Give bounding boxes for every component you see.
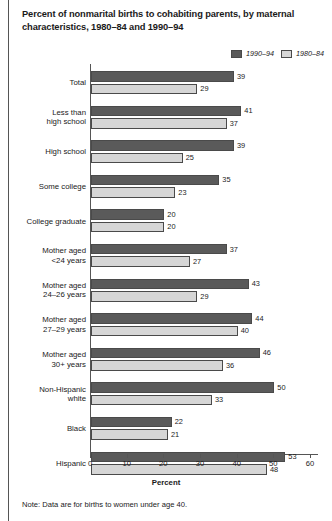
bar-1990-94 — [91, 382, 274, 393]
bar-item: 20 — [91, 208, 176, 221]
x-tick-mark — [237, 454, 238, 458]
bar-item: 44 — [91, 312, 264, 325]
bar-1990-94 — [91, 348, 260, 359]
bar-value-label: 29 — [200, 85, 208, 92]
category-label: Hispanic — [0, 459, 86, 469]
bar-value-label: 29 — [200, 293, 208, 300]
legend-label-1980-84: 1980–84 — [296, 49, 324, 58]
bar-1980-84 — [91, 153, 183, 164]
bar-value-label: 37 — [230, 246, 238, 253]
bar-rows-container: Total3929Less thanhigh school4137High sc… — [0, 66, 332, 481]
bar-1990-94 — [91, 417, 172, 428]
bar-item: 39 — [91, 70, 245, 83]
bar-item: 23 — [91, 186, 231, 199]
x-tick-mark — [200, 454, 201, 458]
bar-item: 37 — [91, 243, 238, 256]
bar-value-label: 50 — [277, 384, 285, 391]
category-label: College graduate — [0, 217, 86, 227]
bar-value-label: 23 — [178, 189, 186, 196]
chart-title: Percent of nonmarital births to cohabiti… — [22, 8, 322, 33]
bar-item: 36 — [91, 359, 271, 372]
x-tick-mark — [310, 454, 311, 458]
bar-1990-94 — [91, 175, 219, 186]
bar-value-label: 39 — [237, 142, 245, 149]
bar-value-label: 37 — [230, 120, 238, 127]
bar-item: 43 — [91, 278, 260, 291]
bar-1980-84 — [91, 395, 212, 406]
category-label: High school — [0, 148, 86, 158]
bar-item: 41 — [91, 105, 253, 118]
bar-pair: 3727 — [91, 243, 238, 268]
bar-value-label: 53 — [288, 453, 296, 460]
category-label: Mother aged30+ years — [0, 350, 86, 369]
legend-item-1980-84: 1980–84 — [281, 49, 324, 58]
bar-value-label: 46 — [263, 349, 271, 356]
x-tick-mark — [273, 454, 274, 458]
bar-pair: 4329 — [91, 278, 260, 303]
bar-1990-94 — [91, 209, 164, 220]
x-tick-mark — [127, 454, 128, 458]
bar-value-label: 20 — [167, 211, 175, 218]
x-tick-label: 20 — [159, 459, 167, 468]
bar-item: 25 — [91, 152, 245, 165]
bar-value-label: 33 — [215, 396, 223, 403]
x-tick-label: 10 — [122, 459, 130, 468]
x-tick-label: 30 — [196, 459, 204, 468]
bar-item: 29 — [91, 83, 245, 96]
bar-chart-plot-area: Total3929Less thanhigh school4137High sc… — [0, 64, 332, 454]
bar-group-row: Black2221 — [0, 412, 332, 447]
chart-legend: 1990–94 1980–84 — [231, 49, 324, 58]
bar-1990-94 — [91, 313, 252, 324]
bar-1980-84 — [91, 84, 197, 95]
bar-item: 39 — [91, 139, 245, 152]
bar-value-label: 43 — [252, 280, 260, 287]
x-tick-mark — [163, 454, 164, 458]
bar-item: 27 — [91, 255, 238, 268]
bar-1980-84 — [91, 291, 197, 302]
bar-1980-84 — [91, 326, 238, 337]
bar-value-label: 41 — [244, 107, 252, 114]
bar-item: 33 — [91, 394, 286, 407]
category-label: Black — [0, 424, 86, 434]
bar-value-label: 20 — [167, 223, 175, 230]
bar-value-label: 35 — [222, 176, 230, 183]
bar-1980-84 — [91, 429, 168, 440]
bar-1990-94 — [91, 140, 234, 151]
bar-item: 20 — [91, 221, 176, 234]
bar-pair: 2221 — [91, 416, 183, 441]
legend-label-1990-94: 1990–94 — [246, 49, 274, 58]
x-tick-label: 0 — [88, 459, 92, 468]
bar-pair: 4636 — [91, 347, 271, 372]
chart-note: Note: Data are for births to women under… — [22, 500, 187, 509]
bar-pair: 4137 — [91, 105, 253, 130]
bar-item: 22 — [91, 416, 183, 429]
bar-group-row: Non-Hispanicwhite5033 — [0, 377, 332, 412]
bar-pair: 5033 — [91, 381, 286, 406]
bar-pair: 4440 — [91, 312, 264, 337]
x-axis-title: Percent — [0, 478, 332, 487]
bar-pair: 2020 — [91, 208, 176, 233]
bar-value-label: 40 — [241, 327, 249, 334]
bar-item: 46 — [91, 347, 271, 360]
bar-1980-84 — [91, 360, 223, 371]
bar-value-label: 39 — [237, 73, 245, 80]
category-label: Mother aged24–26 years — [0, 281, 86, 300]
bar-1990-94 — [91, 279, 249, 290]
bar-group-row: Mother aged30+ years4636 — [0, 343, 332, 378]
bar-1990-94 — [91, 106, 241, 117]
bar-item: 21 — [91, 428, 183, 441]
category-label: Total — [0, 79, 86, 89]
bar-1990-94 — [91, 452, 285, 463]
bar-group-row: Mother aged24–26 years4329 — [0, 274, 332, 309]
bar-group-row: Some college3523 — [0, 170, 332, 205]
x-tick-label: 40 — [232, 459, 240, 468]
bar-value-label: 44 — [255, 315, 263, 322]
bar-1990-94 — [91, 71, 234, 82]
bar-group-row: Mother aged<24 years3727 — [0, 239, 332, 274]
bar-pair: 3523 — [91, 174, 231, 199]
category-label: Mother aged27–29 years — [0, 316, 86, 335]
bar-item: 29 — [91, 290, 260, 303]
category-label: Some college — [0, 182, 86, 192]
bar-group-row: College graduate2020 — [0, 204, 332, 239]
bar-1980-84 — [91, 187, 175, 198]
